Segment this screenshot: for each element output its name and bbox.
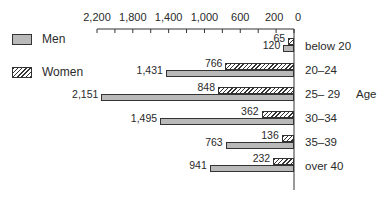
- x-tick-label: 0: [295, 11, 301, 23]
- men-value-label: 1,431: [137, 64, 163, 76]
- y-axis-title: Age: [356, 88, 376, 100]
- category-label: 25– 29: [305, 88, 340, 100]
- category-label: below 20: [305, 40, 351, 52]
- dotted-swatch-icon: [12, 34, 32, 45]
- legend-item-men: Men: [12, 32, 65, 46]
- men-bar: [210, 165, 294, 172]
- men-bar: [226, 142, 294, 149]
- women-value-label: 136: [261, 129, 279, 141]
- women-value-label: 362: [241, 105, 259, 117]
- x-tick-label: 2,200: [83, 11, 111, 23]
- men-value-label: 2,151: [72, 88, 98, 100]
- x-tick-label: 1,400: [155, 11, 183, 23]
- women-bar: [225, 63, 294, 70]
- men-bar: [160, 118, 294, 125]
- men-value-label: 763: [205, 136, 223, 148]
- women-bar: [218, 87, 294, 94]
- men-bar: [166, 70, 294, 77]
- category-label: 20–24: [305, 64, 337, 76]
- category-label: 35–39: [305, 136, 337, 148]
- women-bar: [262, 111, 294, 118]
- x-tick-label: 1,800: [119, 11, 147, 23]
- legend-label: Women: [42, 65, 83, 79]
- hatched-swatch-icon: [12, 67, 32, 78]
- x-tick-label: 600: [231, 11, 249, 23]
- women-value-label: 766: [205, 57, 223, 69]
- x-tick-label: 1,000: [191, 11, 219, 23]
- men-value-label: 1,495: [131, 112, 157, 124]
- women-bar: [282, 135, 294, 142]
- women-value-label: 848: [198, 81, 216, 93]
- women-bar: [273, 158, 294, 165]
- men-bar: [283, 45, 294, 52]
- men-value-label: 941: [189, 159, 207, 171]
- men-bar: [101, 94, 294, 101]
- legend-label: Men: [42, 32, 65, 46]
- women-value-label: 232: [253, 152, 271, 164]
- x-tick-label: 200: [265, 11, 283, 23]
- category-label: 30–34: [305, 112, 337, 124]
- men-value-label: 120: [263, 39, 281, 51]
- legend-item-women: Women: [12, 65, 83, 79]
- age-bar-chart: 2,2001,8001,4001,0006002000 Men Women 65…: [0, 0, 390, 199]
- category-label: over 40: [305, 160, 343, 172]
- women-bar: [288, 38, 294, 45]
